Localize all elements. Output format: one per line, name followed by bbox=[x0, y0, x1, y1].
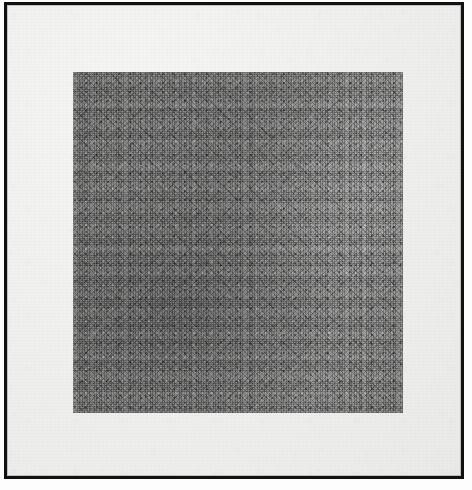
plate-frame-border bbox=[4, 2, 464, 479]
artwork-tone-field bbox=[73, 72, 403, 413]
figure-caption bbox=[6, 482, 466, 490]
artwork-crosshatched-square bbox=[73, 72, 403, 413]
plate-page bbox=[0, 0, 472, 490]
